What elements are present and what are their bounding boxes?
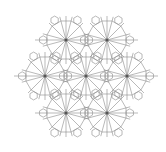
rosette-center-dot [125,74,128,77]
small-hexagon [30,92,37,100]
small-hexagon [74,16,81,24]
geometric-pattern-diagram [0,0,166,152]
small-hexagon [92,16,99,24]
rosette-center-dot [64,111,67,114]
small-hexagon [51,129,58,137]
rosette-center-dot [64,38,67,41]
small-hexagon [71,52,78,60]
small-hexagon [53,92,60,100]
small-hexagon [92,129,99,137]
small-hexagon [94,92,101,100]
small-hexagon [30,52,37,60]
small-hexagon [74,129,81,137]
small-hexagon [74,56,81,64]
small-hexagon [135,52,142,60]
rosette-center-dot [105,111,108,114]
small-hexagon [112,52,119,60]
rosette-center-dot [105,38,108,41]
small-hexagon [115,16,122,24]
small-hexagon [115,56,122,64]
small-hexagon [51,89,58,97]
small-hexagon [51,16,58,24]
small-hexagon [92,89,99,97]
rosette-center-dot [84,74,87,77]
star-rosette-pattern [0,0,166,152]
rosette-center-dot [43,74,46,77]
small-hexagon [115,129,122,137]
small-hexagon [135,92,142,100]
